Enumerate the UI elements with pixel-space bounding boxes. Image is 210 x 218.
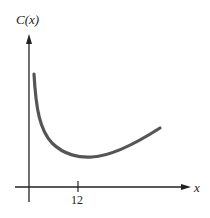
y-axis-label: C(x) <box>16 12 39 28</box>
y-axis-arrow-icon <box>26 34 32 44</box>
x-tick-label-12: 12 <box>71 193 83 208</box>
x-axis-label: x <box>194 180 200 196</box>
cost-function-graph <box>0 0 210 218</box>
x-axis-arrow-icon <box>181 184 191 190</box>
cost-curve <box>34 74 160 157</box>
